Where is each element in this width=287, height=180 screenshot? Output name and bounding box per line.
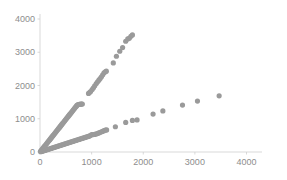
x-tick-label: 0 xyxy=(37,157,42,167)
y-tick-label: 4000 xyxy=(15,14,35,24)
data-point xyxy=(134,117,139,122)
y-tick-label: 1000 xyxy=(15,114,35,124)
x-tick-label: 1000 xyxy=(82,157,102,167)
data-point xyxy=(120,45,125,50)
data-point xyxy=(160,108,165,113)
x-tick-label: 4000 xyxy=(236,157,256,167)
x-tick-label: 3000 xyxy=(185,157,205,167)
data-point xyxy=(80,101,85,106)
data-point xyxy=(113,124,118,129)
data-point xyxy=(130,118,135,123)
data-point xyxy=(123,120,128,125)
data-point xyxy=(217,93,222,98)
data-point xyxy=(104,127,109,132)
y-tick-label: 0 xyxy=(30,147,35,157)
data-point xyxy=(195,99,200,104)
data-point xyxy=(111,60,116,65)
data-point xyxy=(104,69,109,74)
y-tick-label: 2000 xyxy=(15,81,35,91)
data-point xyxy=(150,111,155,116)
x-tick-label: 2000 xyxy=(133,157,153,167)
data-point xyxy=(130,32,135,37)
data-point xyxy=(114,54,119,59)
y-tick-label: 3000 xyxy=(15,47,35,57)
data-point xyxy=(180,103,185,108)
chart-canvas: 0100020003000400001000200030004000 xyxy=(0,0,287,180)
scatter-chart: 0100020003000400001000200030004000 xyxy=(0,0,287,180)
